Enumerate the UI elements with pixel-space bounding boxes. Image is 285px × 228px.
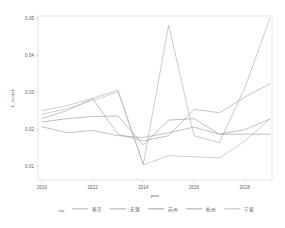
y-tick-label: 0.04 — [25, 53, 34, 58]
legend-item-label-5: 宁波 — [244, 206, 254, 213]
legend-item-label-2: 无锡 — [130, 206, 140, 213]
line-chart-figure: 0.010.020.030.040.05 2010201220142016201… — [0, 0, 285, 228]
legend-item-label-3: 苏州 — [168, 206, 178, 213]
x-tick-label: 2018 — [240, 185, 251, 190]
legend-item-label-4: 杭州 — [206, 206, 216, 213]
legend-item-label-1: 南京 — [92, 206, 102, 213]
y-tick-label: 0.05 — [25, 16, 34, 21]
y-axis-title: L_score1 — [10, 88, 15, 107]
chart-svg: 0.010.020.030.040.05 2010201220142016201… — [0, 0, 285, 228]
x-tick-label: 2014 — [138, 185, 149, 190]
y-tick-label: 0.01 — [25, 164, 34, 169]
x-tick-label: 2012 — [88, 185, 99, 190]
x-axis-title: year — [151, 193, 160, 198]
y-tick-label: 0.03 — [25, 90, 34, 95]
x-tick-label: 2010 — [37, 185, 48, 190]
x-tick-label: 2016 — [189, 185, 200, 190]
legend-title: city — [58, 208, 66, 213]
y-tick-label: 0.02 — [25, 127, 34, 132]
